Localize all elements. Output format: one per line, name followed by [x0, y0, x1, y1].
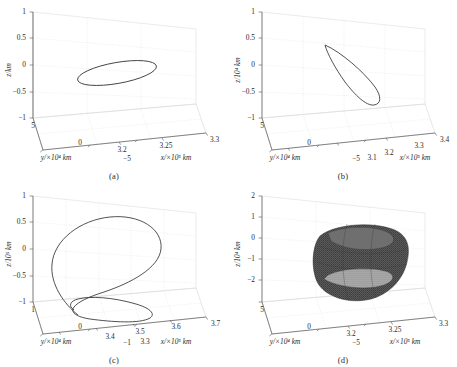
- tick-x: 3.3: [140, 337, 150, 346]
- z-axis-label: z/10⁴ km: [233, 241, 242, 268]
- tick-y: 5: [260, 305, 264, 314]
- tick-x: 3.25: [160, 141, 173, 150]
- z-axis-label: z/10⁴ km: [233, 57, 242, 84]
- y-axis-label: y/×10⁴ km: [40, 153, 72, 162]
- z-axis-label: z/10⁵ km: [4, 241, 13, 268]
- subplot-panel-a: 1 0.5 0 −0.5 −1 5 0 −5 3.2 3.25 3.3 z/km…: [0, 0, 228, 183]
- tick-z: 1: [251, 7, 255, 16]
- x-axis-label: x/×10⁵ km: [399, 153, 431, 162]
- tick-y: 0: [307, 322, 311, 331]
- subplot-panel-c: 1 0.5 0 −0.5 −1 1 0 −1 3.3 3.4 3.5 3.6 3…: [0, 184, 228, 367]
- plot-b-svg: 1 0.5 0 −0.5 −1 5 0 −5 3.1 3.2 3.3 3.4 z…: [229, 0, 457, 183]
- panel-a-grid: [33, 12, 206, 150]
- tick-x: 3.3: [210, 135, 220, 144]
- tick-z: −0.5: [242, 87, 256, 96]
- panel-a-axes: [30, 12, 208, 152]
- tick-x: 3.2: [117, 145, 127, 154]
- tick-x: 3.3: [414, 141, 424, 150]
- subplot-panel-b: 1 0.5 0 −0.5 −1 5 0 −5 3.1 3.2 3.3 3.4 z…: [229, 0, 457, 183]
- tick-x: 3.5: [135, 327, 145, 336]
- z-axis-label: z/km: [4, 63, 13, 78]
- tick-y: 1: [31, 305, 35, 314]
- plot-d-svg: 2 1 0 −1 −2 5 0 −5 3.2 3.25 3.3 z/10⁴ km…: [229, 184, 457, 367]
- panel-c-tick-labels: 1 0.5 0 −0.5 −1 1 0 −1 3.3 3.4 3.5 3.6 3…: [13, 191, 221, 347]
- y-axis-label: y/×10⁴ km: [40, 337, 72, 346]
- panel-a-caption: (a): [0, 171, 228, 181]
- plot-c-svg: 1 0.5 0 −0.5 −1 1 0 −1 3.3 3.4 3.5 3.6 3…: [0, 184, 228, 367]
- y-axis-label: y/×10⁴ km: [269, 153, 301, 162]
- tick-y: −1: [123, 338, 131, 347]
- tick-z: −1: [18, 297, 26, 306]
- tick-x: 3.25: [389, 325, 402, 334]
- figure-four-panel-orbits: 1 0.5 0 −0.5 −1 5 0 −5 3.2 3.25 3.3 z/km…: [0, 0, 457, 367]
- plot-a-svg: 1 0.5 0 −0.5 −1 5 0 −5 3.2 3.25 3.3 z/km…: [0, 0, 228, 183]
- y-axis-label: y/×10⁴ km: [269, 337, 301, 346]
- subplot-panel-d: 2 1 0 −1 −2 5 0 −5 3.2 3.25 3.3 z/10⁴ km…: [229, 184, 457, 367]
- tick-x: 3.7: [211, 319, 221, 328]
- tick-y: 0: [78, 322, 82, 331]
- tick-y: 0: [78, 138, 82, 147]
- panel-b-grid: [262, 12, 435, 150]
- tick-z: 0: [251, 233, 255, 242]
- tick-z: 0.5: [17, 33, 27, 42]
- panel-d-surface: [313, 224, 408, 301]
- tick-z: 2: [251, 191, 255, 200]
- panel-b-axes: [259, 12, 437, 152]
- tick-x: 3.3: [439, 319, 449, 328]
- tick-x: 3.1: [367, 153, 377, 162]
- panel-a-curve: [76, 56, 158, 91]
- panel-a-tick-labels: 1 0.5 0 −0.5 −1 5 0 −5 3.2 3.25 3.3: [13, 7, 220, 163]
- tick-y: −5: [352, 338, 360, 347]
- tick-y: −5: [352, 154, 360, 163]
- tick-x: 3.4: [440, 135, 450, 144]
- panel-b-caption: (b): [229, 171, 457, 181]
- panel-b-axis-titles: z/10⁴ km y/×10⁴ km x/×10⁵ km: [233, 57, 431, 162]
- panel-c-caption: (c): [0, 355, 228, 365]
- panel-c-curve: [52, 217, 161, 322]
- tick-z: −2: [247, 275, 255, 284]
- tick-x: 3.2: [346, 329, 356, 338]
- tick-z: 0.5: [246, 33, 256, 42]
- x-axis-label: x/×10⁵ km: [389, 337, 421, 346]
- tick-z: 1: [22, 191, 26, 200]
- tick-x: 3.4: [105, 332, 115, 341]
- tick-z: 0: [22, 60, 26, 69]
- tick-z: −1: [247, 254, 255, 263]
- tick-x: 3.2: [384, 148, 394, 157]
- tick-z: 0: [22, 244, 26, 253]
- x-axis-label: x/×10⁵ km: [160, 153, 192, 162]
- tick-y: 0: [307, 138, 311, 147]
- tick-z: −0.5: [13, 271, 27, 280]
- tick-z: 0: [251, 60, 255, 69]
- tick-z: 0.5: [17, 217, 27, 226]
- tick-x: 3.6: [171, 322, 181, 331]
- tick-z: 1: [251, 212, 255, 221]
- tick-z: −1: [18, 113, 26, 122]
- tick-z: 1: [22, 7, 26, 16]
- tick-y: −5: [123, 154, 131, 163]
- panel-d-caption: (d): [229, 355, 457, 365]
- tick-z: −0.5: [13, 87, 27, 96]
- x-axis-label: x/×10⁵ km: [160, 337, 192, 346]
- tick-y: 5: [260, 121, 264, 130]
- tick-z: −1: [247, 113, 255, 122]
- tick-y: 5: [31, 121, 35, 130]
- panel-b-curve: [325, 45, 380, 105]
- panel-b-tick-labels: 1 0.5 0 −0.5 −1 5 0 −5 3.1 3.2 3.3 3.4: [242, 7, 450, 163]
